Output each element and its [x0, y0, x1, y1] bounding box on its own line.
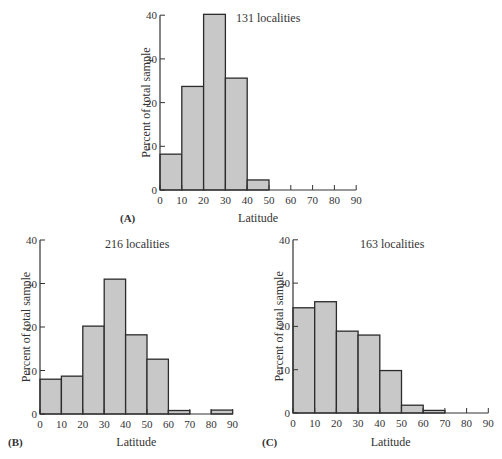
x-tick-label: 20	[331, 417, 343, 429]
bar	[182, 86, 204, 190]
bar	[61, 376, 82, 414]
x-tick-label: 80	[461, 417, 473, 429]
x-tick-label: 10	[309, 417, 321, 429]
x-tick-label: 90	[227, 418, 239, 430]
y-axis-label: Percent of total sample	[19, 272, 33, 382]
x-tick-label: 20	[77, 418, 89, 430]
x-tick-label: 10	[56, 418, 68, 430]
x-tick-label: 0	[290, 417, 296, 429]
histogram-a: 0102030400102030405060708090Percent of t…	[120, 9, 362, 225]
x-tick-label: 40	[120, 418, 132, 430]
y-axis-label: Percent of total sample	[272, 271, 286, 381]
x-tick-label: 30	[99, 418, 111, 430]
panel-label: (B)	[8, 436, 23, 449]
bar	[358, 335, 380, 413]
x-tick-label: 80	[206, 418, 218, 430]
x-tick-label: 70	[439, 417, 451, 429]
sample-size-annotation: 216 localities	[105, 237, 170, 251]
x-tick-label: 70	[307, 194, 319, 206]
charts-canvas: 0102030400102030405060708090Percent of t…	[0, 0, 502, 459]
x-tick-label: 90	[483, 417, 495, 429]
x-tick-label: 10	[176, 194, 188, 206]
sample-size-annotation: 163 localities	[360, 237, 425, 251]
x-tick-label: 20	[198, 194, 210, 206]
panel-label: (A)	[120, 212, 136, 225]
y-axis-label: Percent of total sample	[139, 47, 153, 157]
bar	[402, 405, 424, 413]
x-tick-label: 50	[264, 194, 276, 206]
x-tick-label: 90	[351, 194, 363, 206]
bar	[336, 331, 358, 413]
x-tick-label: 0	[157, 194, 163, 206]
bar	[380, 371, 402, 413]
bar	[293, 308, 315, 413]
x-tick-label: 80	[329, 194, 341, 206]
y-tick-label: 40	[279, 234, 291, 246]
bar	[204, 14, 226, 190]
x-tick-label: 0	[37, 418, 43, 430]
x-tick-label: 60	[285, 194, 297, 206]
x-tick-label: 60	[163, 418, 175, 430]
x-axis-label: Latitude	[371, 435, 411, 449]
x-tick-label: 60	[418, 417, 430, 429]
bar	[40, 379, 61, 414]
histogram-c: 0102030400102030405060708090Percent of t…	[262, 234, 494, 449]
y-tick-label: 40	[26, 234, 38, 246]
bar	[160, 154, 182, 190]
bar	[83, 326, 104, 414]
bar	[247, 180, 269, 190]
x-tick-label: 70	[184, 418, 196, 430]
bar	[315, 302, 337, 413]
x-tick-label: 50	[396, 417, 408, 429]
x-axis-label: Latitude	[116, 435, 156, 449]
x-tick-label: 30	[353, 417, 365, 429]
x-tick-label: 40	[242, 194, 254, 206]
histogram-b: 0102030400102030405060708090Percent of t…	[8, 234, 239, 449]
x-tick-label: 50	[142, 418, 154, 430]
y-tick-label: 40	[146, 9, 158, 21]
bar	[147, 359, 168, 414]
bar	[104, 279, 125, 414]
bar	[126, 335, 147, 414]
panel-label: (C)	[262, 436, 278, 449]
x-axis-label: Latitude	[238, 211, 278, 225]
bar	[225, 78, 247, 190]
x-tick-label: 30	[220, 194, 232, 206]
sample-size-annotation: 131 localities	[236, 11, 301, 25]
x-tick-label: 40	[374, 417, 386, 429]
